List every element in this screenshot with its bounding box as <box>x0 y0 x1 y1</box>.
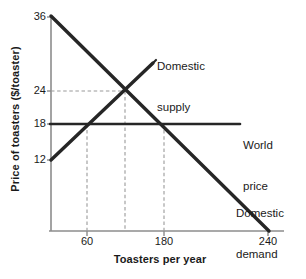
domestic-demand-label-line1: Domestic <box>236 207 284 221</box>
y-axis-title: Price of toasters ($/toaster) <box>9 46 21 191</box>
domestic-supply-curve <box>51 63 153 160</box>
supply-demand-figure: 36 24 18 12 60 180 240 Price of toasters… <box>0 0 306 279</box>
x-axis-title: Toasters per year <box>80 254 240 266</box>
y-tick-label-18: 18 <box>20 118 46 130</box>
y-tick-label-24: 24 <box>20 85 46 97</box>
y-axis-title-wrapper: Price of toasters ($/toaster) <box>5 19 23 219</box>
x-tick-label-180: 180 <box>147 236 181 248</box>
y-tick-label-36: 36 <box>20 11 46 23</box>
x-tick-label-60: 60 <box>70 236 104 248</box>
domestic-supply-label-line2: supply <box>157 101 205 115</box>
domestic-supply-label: Domestic supply <box>157 33 205 142</box>
domestic-supply-label-line1: Domestic <box>157 60 205 74</box>
domestic-demand-label-line2: demand <box>236 248 284 262</box>
world-price-label-line1: World <box>243 139 273 153</box>
y-tick-label-12: 12 <box>20 154 46 166</box>
domestic-demand-label: Domestic demand <box>236 180 284 279</box>
